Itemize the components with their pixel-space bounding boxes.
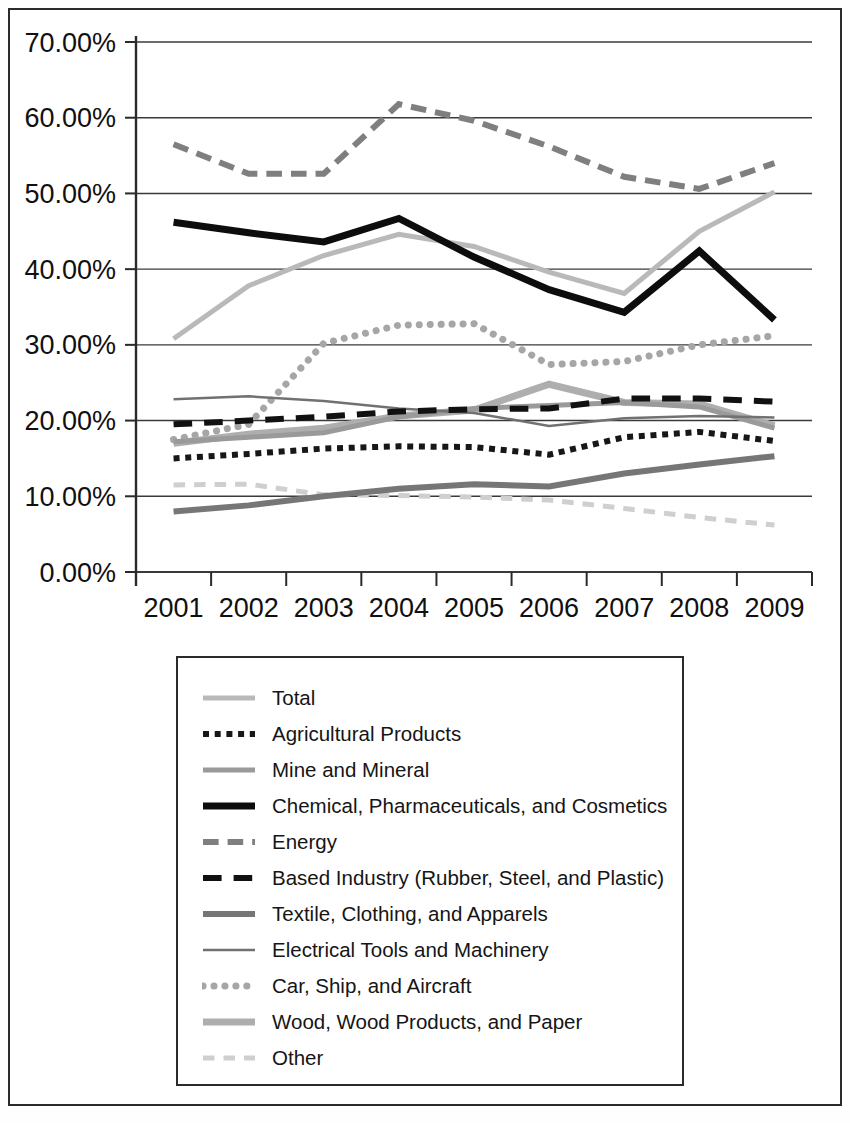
legend-item: Car, Ship, and Aircraft: [178, 968, 682, 1004]
y-axis-tick-label: 30.00%: [24, 330, 116, 360]
legend-swatch-icon: [202, 691, 256, 705]
series-line: [174, 104, 775, 189]
legend-swatch-icon: [202, 907, 256, 921]
x-axis-tick-label: 2004: [369, 593, 429, 623]
legend-swatch-icon: [202, 943, 256, 957]
legend-item: Based Industry (Rubber, Steel, and Plast…: [178, 860, 682, 896]
chart-page: 0.00%10.00%20.00%30.00%40.00%50.00%60.00…: [0, 0, 850, 1123]
legend-item-label: Textile, Clothing, and Apparels: [272, 904, 548, 925]
legend-item-label: Other: [272, 1048, 323, 1069]
legend-item-label: Chemical, Pharmaceuticals, and Cosmetics: [272, 796, 667, 817]
y-axis-tick-label: 50.00%: [24, 179, 116, 209]
legend-item: Energy: [178, 824, 682, 860]
legend-item: Mine and Mineral: [178, 752, 682, 788]
legend-swatch-icon: [202, 979, 256, 993]
y-axis-tick-label: 60.00%: [24, 103, 116, 133]
y-axis-tick-label: 0.00%: [39, 558, 116, 588]
legend-item: Textile, Clothing, and Apparels: [178, 896, 682, 932]
y-axis-tick-label: 40.00%: [24, 255, 116, 285]
legend-swatch-icon: [202, 835, 256, 849]
x-axis-tick-label: 2006: [519, 593, 579, 623]
x-axis-tick-label: 2008: [669, 593, 729, 623]
legend-item: Wood, Wood Products, and Paper: [178, 1004, 682, 1040]
legend-swatch-icon: [202, 1015, 256, 1029]
legend-item-label: Energy: [272, 832, 337, 853]
x-axis-tick-label: 2007: [594, 593, 654, 623]
plot-canvas: 0.00%10.00%20.00%30.00%40.00%50.00%60.00…: [0, 0, 850, 640]
x-axis-tick-label: 2002: [219, 593, 279, 623]
legend-item-label: Agricultural Products: [272, 724, 461, 745]
legend-swatch-icon: [202, 871, 256, 885]
legend-item: Chemical, Pharmaceuticals, and Cosmetics: [178, 788, 682, 824]
legend-swatch-icon: [202, 799, 256, 813]
y-axis-tick-label: 10.00%: [24, 482, 116, 512]
legend-item-label: Car, Ship, and Aircraft: [272, 976, 471, 997]
legend-item-label: Wood, Wood Products, and Paper: [272, 1012, 582, 1033]
legend-swatch-icon: [202, 727, 256, 741]
legend-item-label: Based Industry (Rubber, Steel, and Plast…: [272, 868, 664, 889]
legend-item-label: Total: [272, 688, 315, 709]
chart-legend: TotalAgricultural ProductsMine and Miner…: [176, 656, 684, 1086]
legend-item: Agricultural Products: [178, 716, 682, 752]
legend-item-label: Electrical Tools and Machinery: [272, 940, 549, 961]
legend-item-label: Mine and Mineral: [272, 760, 429, 781]
y-axis-tick-label: 70.00%: [24, 28, 116, 58]
legend-swatch-icon: [202, 763, 256, 777]
x-axis-tick-label: 2003: [294, 593, 354, 623]
x-axis-tick-label: 2009: [744, 593, 804, 623]
series-line: [174, 324, 775, 440]
legend-item: Electrical Tools and Machinery: [178, 932, 682, 968]
legend-item: Total: [178, 680, 682, 716]
legend-item: Other: [178, 1040, 682, 1076]
legend-swatch-icon: [202, 1051, 256, 1065]
x-axis-tick-label: 2005: [444, 593, 504, 623]
x-axis-tick-label: 2001: [144, 593, 204, 623]
y-axis-tick-label: 20.00%: [24, 406, 116, 436]
line-chart: 0.00%10.00%20.00%30.00%40.00%50.00%60.00…: [0, 0, 850, 640]
